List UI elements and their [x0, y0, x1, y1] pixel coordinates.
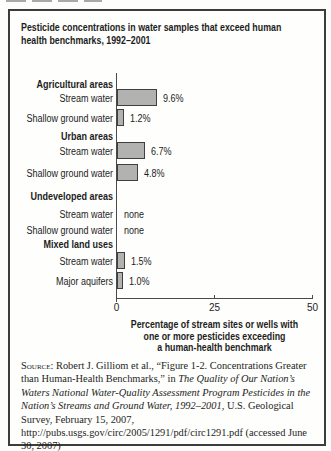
source-note: Source: Robert J. Gilliom et al., “Figur…: [21, 359, 318, 451]
x-tick-label: 25: [209, 302, 220, 313]
figure-title-line: Pesticide concentrations in water sample…: [21, 21, 281, 34]
category-label: Major aquifers: [20, 276, 113, 287]
value-label: 1.5%: [131, 256, 152, 267]
chart-row: Stream water9.6%: [10, 89, 324, 107]
group-header-label: Undeveloped areas: [20, 191, 113, 202]
group-header-label: Agricultural areas: [20, 79, 113, 90]
category-label: Shallow ground water: [20, 168, 113, 179]
x-tick-label: 50: [307, 302, 318, 313]
value-label: 6.7%: [151, 146, 172, 157]
group-header-row: Undeveloped areas: [10, 187, 324, 205]
category-label: Stream water: [20, 256, 113, 267]
category-label: Shallow ground water: [20, 225, 113, 236]
category-label: Stream water: [20, 146, 113, 157]
x-axis-tick-50: [312, 295, 313, 298]
group-header-label: Urban areas: [20, 131, 113, 142]
bar-chart: Agricultural areasStream water9.6%Shallo…: [10, 61, 324, 356]
x-axis-tick-25: [214, 295, 215, 298]
x-axis-title-line: a human-health benchmark: [157, 342, 271, 354]
chart-row: Stream water6.7%: [10, 142, 324, 160]
group-header-row: Mixed land uses: [10, 235, 324, 253]
x-tick-label: 0: [114, 302, 120, 313]
bar: [117, 164, 138, 181]
y-axis-line: [116, 73, 117, 298]
figure-title: Pesticide concentrations in water sample…: [21, 21, 331, 47]
chart-row: Shallow ground water1.2%: [10, 109, 324, 127]
cropped-figure-label: [6, 0, 102, 2]
bar: [117, 89, 157, 106]
value-label: 4.8%: [144, 168, 165, 179]
x-axis-title-line: one or more pesticides exceeding: [144, 331, 286, 343]
value-label: 1.2%: [130, 113, 151, 124]
bar: [117, 142, 145, 159]
figure-box: Pesticide concentrations in water sample…: [8, 9, 326, 446]
category-label: Stream water: [20, 93, 113, 104]
bar: [117, 109, 124, 126]
value-label: none: [124, 225, 144, 236]
x-axis-line: [116, 298, 313, 299]
value-label: 1.0%: [129, 276, 150, 287]
chart-row: Stream water1.5%: [10, 252, 324, 270]
x-axis-title: Percentage of stream sites or wells with…: [128, 319, 301, 354]
group-header-label: Mixed land uses: [20, 239, 113, 250]
value-label: none: [124, 209, 144, 220]
x-axis-title-line: Percentage of stream sites or wells with: [131, 319, 298, 331]
chart-row: Major aquifers1.0%: [10, 272, 324, 290]
category-label: Shallow ground water: [20, 113, 113, 124]
figure-title-line: health benchmarks, 1992–2001: [21, 34, 281, 47]
value-label: 9.6%: [163, 93, 184, 104]
chart-row: Shallow ground water4.8%: [10, 164, 324, 182]
bar: [117, 252, 125, 269]
category-label: Stream water: [20, 209, 113, 220]
bar: [117, 272, 123, 289]
source-segment: Source:: [21, 360, 53, 371]
